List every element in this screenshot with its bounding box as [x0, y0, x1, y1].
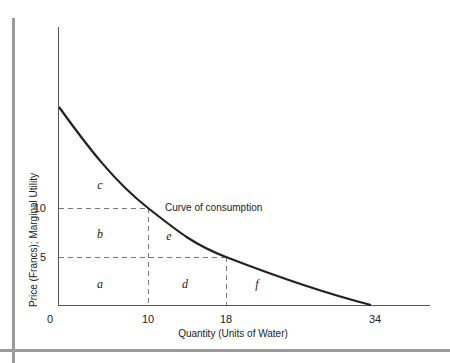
- region-f: f: [255, 277, 260, 291]
- region-e: e: [166, 229, 172, 243]
- reference-lines: [59, 208, 227, 305]
- curve-annotation: Curve of consumption: [165, 202, 262, 213]
- x-tick-18: 18: [220, 313, 232, 325]
- region-a: a: [97, 277, 103, 291]
- region-b: b: [97, 227, 103, 241]
- chart: 10 5 0 10 18 34 Quantity (Units of Water…: [0, 0, 450, 363]
- x-tick-34: 34: [369, 313, 381, 325]
- origin-label: 0: [47, 313, 53, 325]
- x-tick-10: 10: [142, 313, 154, 325]
- region-c: c: [97, 178, 103, 192]
- y-axis-title: Price (Francs); Marginal Utility: [28, 173, 39, 307]
- region-d: d: [182, 277, 189, 291]
- y-tick-5: 5: [40, 251, 46, 263]
- x-axis-title: Quantity (Units of Water): [178, 328, 288, 339]
